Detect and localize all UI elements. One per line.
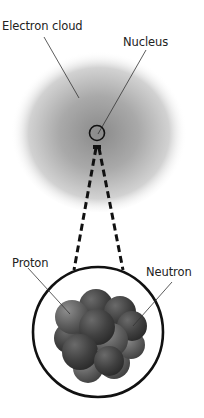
nucleus-label: Nucleus: [123, 35, 168, 49]
neutron-label: Neutron: [146, 265, 192, 279]
proton-label: Proton: [12, 256, 48, 270]
electron-cloud: [11, 48, 187, 212]
electron-cloud-label: Electron cloud: [2, 19, 83, 33]
atom-diagram: [0, 0, 204, 418]
